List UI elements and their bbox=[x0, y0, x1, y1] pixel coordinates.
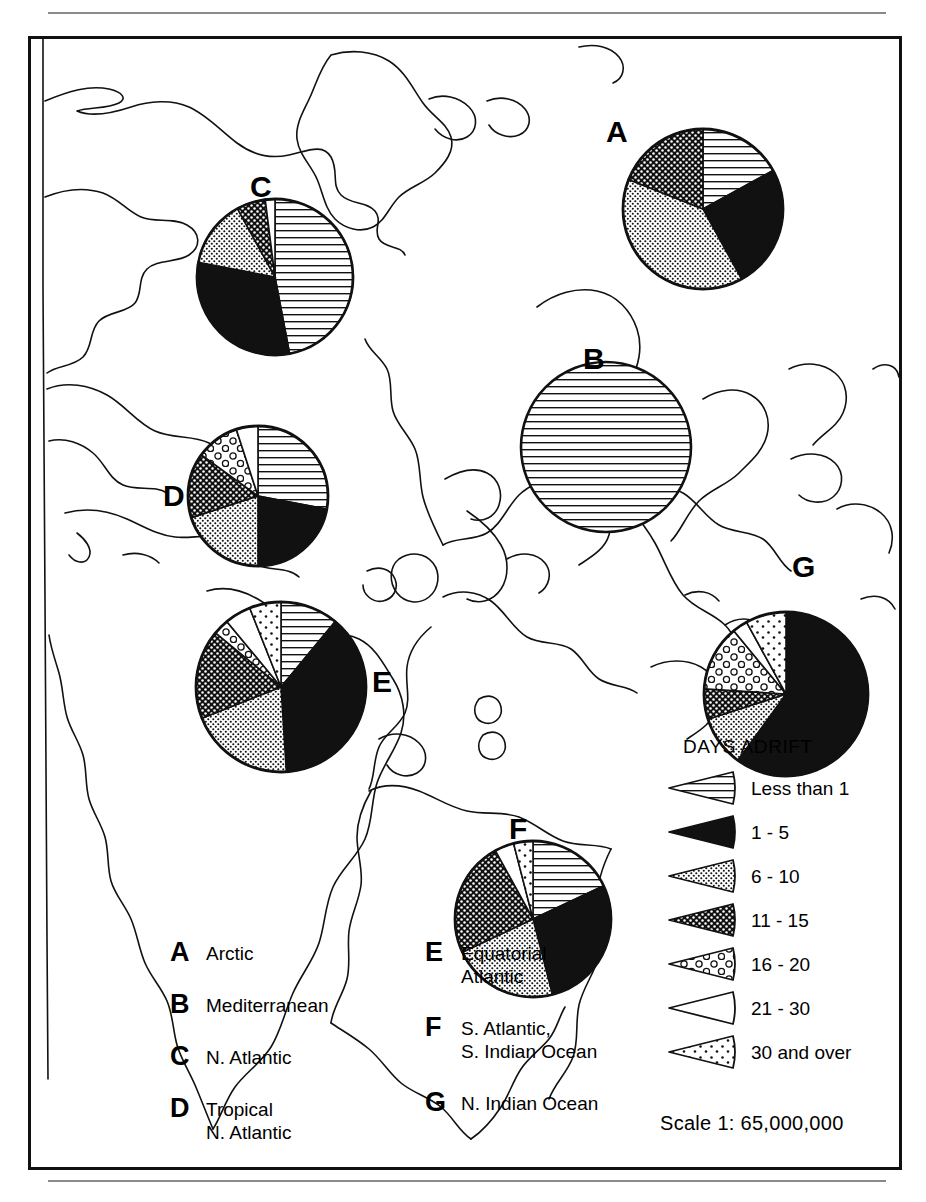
legend-title: DAYS ADRIFT bbox=[683, 736, 900, 758]
region-key-name-b: Mediterranean bbox=[206, 992, 329, 1017]
region-key-item-g: GN. Indian Ocean bbox=[425, 1090, 655, 1115]
legend-swatch-16-20 bbox=[665, 945, 743, 985]
region-key-item-f: FS. Atlantic, S. Indian Ocean bbox=[425, 1015, 655, 1063]
region-key-item-b: BMediterranean bbox=[170, 992, 410, 1017]
bottom-divider-rule bbox=[48, 1180, 886, 1182]
region-key-name-g: N. Indian Ocean bbox=[461, 1090, 598, 1115]
pie-chart-e bbox=[192, 598, 370, 776]
region-key-letter-d: D bbox=[170, 1096, 206, 1121]
wedge-icon bbox=[669, 816, 735, 848]
legend-swatch-6-10 bbox=[665, 857, 743, 897]
region-key-letter-c: C bbox=[170, 1044, 206, 1069]
pie-label-b: B bbox=[583, 344, 604, 374]
legend-label-16-20: 16 - 20 bbox=[751, 954, 810, 976]
region-key-letter-g: G bbox=[425, 1090, 461, 1115]
legend-label-30+: 30 and over bbox=[751, 1042, 851, 1064]
legend-swatch-1-5 bbox=[665, 813, 743, 853]
wedge-icon bbox=[669, 948, 735, 980]
region-key-name-a: Arctic bbox=[206, 940, 254, 965]
figure-page: ABCDEFG DAYS ADRIFT Less than 11 - 56 - … bbox=[0, 0, 926, 1202]
region-key-item-c: CN. Atlantic bbox=[170, 1044, 410, 1069]
legend-row-11-15: 11 - 15 bbox=[665, 899, 900, 943]
pie-label-c: C bbox=[250, 172, 271, 202]
pie-slice bbox=[521, 362, 691, 532]
pie-label-a: A bbox=[606, 117, 627, 147]
top-divider-rule bbox=[48, 12, 886, 14]
legend-label-21-30: 21 - 30 bbox=[751, 998, 810, 1020]
region-key-name-c: N. Atlantic bbox=[206, 1044, 292, 1069]
legend-label-lt1: Less than 1 bbox=[751, 778, 849, 800]
pie-label-d: D bbox=[163, 481, 184, 511]
legend-row-lt1: Less than 1 bbox=[665, 767, 900, 811]
pie-label-f: F bbox=[509, 814, 527, 844]
pie-chart-d bbox=[184, 422, 332, 570]
region-key-letter-a: A bbox=[170, 940, 206, 965]
region-key-column-right: EEquatorial AtlanticFS. Atlantic, S. Ind… bbox=[425, 940, 655, 1142]
wedge-icon bbox=[669, 860, 735, 892]
region-key-item-d: DTropical N. Atlantic bbox=[170, 1096, 410, 1144]
region-key-letter-f: F bbox=[425, 1015, 461, 1040]
legend-swatch-30+ bbox=[665, 1033, 743, 1073]
legend-rows: Less than 11 - 56 - 1011 - 1516 - 2021 -… bbox=[665, 767, 900, 1075]
legend-label-1-5: 1 - 5 bbox=[751, 822, 789, 844]
wedge-icon bbox=[669, 772, 735, 804]
pie-chart-b bbox=[517, 358, 695, 536]
legend-swatch-lt1 bbox=[665, 769, 743, 809]
legend-row-30+: 30 and over bbox=[665, 1031, 900, 1075]
pie-chart-c bbox=[193, 195, 357, 359]
wedge-icon bbox=[669, 904, 735, 936]
legend-label-6-10: 6 - 10 bbox=[751, 866, 800, 888]
pie-label-e: E bbox=[372, 667, 392, 697]
region-key-name-e: Equatorial Atlantic bbox=[461, 940, 547, 988]
wedge-icon bbox=[669, 992, 735, 1024]
wedge-icon bbox=[669, 1036, 735, 1068]
legend-swatch-21-30 bbox=[665, 989, 743, 1029]
pie-chart-a bbox=[619, 125, 787, 293]
region-key-name-f: S. Atlantic, S. Indian Ocean bbox=[461, 1015, 597, 1063]
legend-row-21-30: 21 - 30 bbox=[665, 987, 900, 1031]
pie-slice bbox=[258, 426, 328, 509]
region-key-item-a: AArctic bbox=[170, 940, 410, 965]
legend-row-16-20: 16 - 20 bbox=[665, 943, 900, 987]
map-scale: Scale 1: 65,000,000 bbox=[660, 1112, 844, 1135]
pie-label-g: G bbox=[792, 552, 815, 582]
region-key-letter-e: E bbox=[425, 940, 461, 965]
region-key-column-left: AArcticBMediterraneanCN. AtlanticDTropic… bbox=[170, 940, 410, 1171]
region-key-item-e: EEquatorial Atlantic bbox=[425, 940, 655, 988]
legend-row-1-5: 1 - 5 bbox=[665, 811, 900, 855]
legend-label-11-15: 11 - 15 bbox=[751, 910, 809, 932]
legend-row-6-10: 6 - 10 bbox=[665, 855, 900, 899]
region-key-letter-b: B bbox=[170, 992, 206, 1017]
pie-slice bbox=[275, 199, 353, 354]
days-adrift-legend: DAYS ADRIFT Less than 11 - 56 - 1011 - 1… bbox=[665, 736, 900, 1075]
region-key-name-d: Tropical N. Atlantic bbox=[206, 1096, 292, 1144]
legend-swatch-11-15 bbox=[665, 901, 743, 941]
